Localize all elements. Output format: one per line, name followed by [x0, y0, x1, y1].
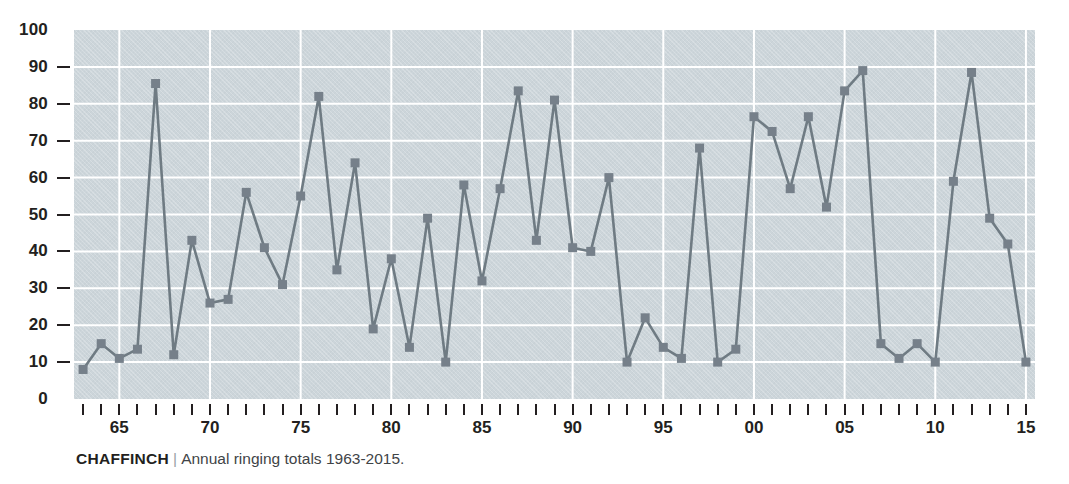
data-point-marker[interactable]: [586, 247, 595, 256]
data-point-marker[interactable]: [659, 343, 668, 352]
x-tick-mark: [662, 404, 664, 415]
y-tick-label: 20: [29, 315, 48, 335]
data-point-marker[interactable]: [205, 299, 214, 308]
x-tick-mark: [336, 404, 338, 415]
data-point-marker[interactable]: [876, 339, 885, 348]
data-point-marker[interactable]: [695, 144, 704, 153]
data-point-marker[interactable]: [568, 243, 577, 252]
data-point-marker[interactable]: [441, 358, 450, 367]
y-tick-mark: [57, 361, 70, 363]
data-point-marker[interactable]: [532, 236, 541, 245]
data-point-marker[interactable]: [858, 66, 867, 75]
data-point-marker[interactable]: [423, 214, 432, 223]
data-point-marker[interactable]: [405, 343, 414, 352]
x-tick-mark: [554, 404, 556, 415]
x-tick-mark: [626, 404, 628, 415]
data-point-marker[interactable]: [187, 236, 196, 245]
data-point-marker[interactable]: [351, 158, 360, 167]
data-point-marker[interactable]: [477, 276, 486, 285]
data-point-marker[interactable]: [514, 86, 523, 95]
data-point-marker[interactable]: [731, 345, 740, 354]
caption-separator: |: [169, 450, 181, 467]
data-point-marker[interactable]: [641, 313, 650, 322]
x-tick-mark: [680, 404, 682, 415]
data-point-marker[interactable]: [133, 345, 142, 354]
x-tick-mark: [408, 404, 410, 415]
data-point-marker[interactable]: [967, 68, 976, 77]
data-point-marker[interactable]: [713, 358, 722, 367]
x-tick-mark: [481, 404, 483, 415]
data-point-marker[interactable]: [604, 173, 613, 182]
data-point-marker[interactable]: [296, 192, 305, 201]
x-tick-mark: [136, 404, 138, 415]
data-point-marker[interactable]: [1021, 358, 1030, 367]
data-point-marker[interactable]: [314, 92, 323, 101]
data-point-marker[interactable]: [79, 365, 88, 374]
x-tick-mark: [735, 404, 737, 415]
data-point-marker[interactable]: [949, 177, 958, 186]
data-point-marker[interactable]: [97, 339, 106, 348]
x-tick-mark: [825, 404, 827, 415]
data-point-marker[interactable]: [260, 243, 269, 252]
x-tick-mark: [499, 404, 501, 415]
y-tick-label: 10: [29, 352, 48, 372]
data-point-marker[interactable]: [387, 254, 396, 263]
data-point-marker[interactable]: [786, 184, 795, 193]
x-tick-mark: [318, 404, 320, 415]
x-tick-mark: [517, 404, 519, 415]
data-point-marker[interactable]: [332, 265, 341, 274]
data-point-marker[interactable]: [768, 127, 777, 136]
data-point-marker[interactable]: [369, 324, 378, 333]
data-point-marker[interactable]: [623, 358, 632, 367]
x-tick-mark: [862, 404, 864, 415]
data-point-marker[interactable]: [804, 112, 813, 121]
y-tick-mark: [57, 66, 70, 68]
data-point-marker[interactable]: [895, 354, 904, 363]
x-tick-mark: [263, 404, 265, 415]
data-point-marker[interactable]: [840, 86, 849, 95]
x-tick-mark: [989, 404, 991, 415]
data-point-marker[interactable]: [931, 358, 940, 367]
data-point-marker[interactable]: [169, 350, 178, 359]
data-point-marker[interactable]: [115, 354, 124, 363]
x-tick-mark: [608, 404, 610, 415]
y-tick-mark: [57, 140, 70, 142]
x-tick-label: 75: [291, 418, 310, 438]
data-point-marker[interactable]: [224, 295, 233, 304]
x-tick-label: 65: [110, 418, 129, 438]
x-tick-mark: [118, 404, 120, 415]
x-axis: 6570758085909500051015: [74, 399, 1035, 449]
data-point-marker[interactable]: [278, 280, 287, 289]
x-tick-mark: [971, 404, 973, 415]
y-tick-label: 50: [29, 205, 48, 225]
y-tick-mark: [57, 103, 70, 105]
x-tick-mark: [445, 404, 447, 415]
x-tick-label: 80: [382, 418, 401, 438]
data-point-marker[interactable]: [677, 354, 686, 363]
data-point-marker[interactable]: [913, 339, 922, 348]
x-tick-mark: [807, 404, 809, 415]
figure-caption: CHAFFINCH|Annual ringing totals 1963-201…: [76, 450, 404, 468]
data-point-marker[interactable]: [151, 79, 160, 88]
x-tick-mark: [1025, 404, 1027, 415]
y-tick-mark: [57, 177, 70, 179]
x-tick-mark: [753, 404, 755, 415]
x-tick-label: 95: [654, 418, 673, 438]
x-tick-mark: [590, 404, 592, 415]
data-point-marker[interactable]: [550, 96, 559, 105]
data-point-marker[interactable]: [822, 203, 831, 212]
y-tick-mark: [57, 214, 70, 216]
y-tick-label: 90: [29, 57, 48, 77]
x-tick-mark: [699, 404, 701, 415]
data-point-marker[interactable]: [459, 180, 468, 189]
data-point-marker[interactable]: [242, 188, 251, 197]
y-tick-label: 40: [29, 241, 48, 261]
x-tick-mark: [209, 404, 211, 415]
y-tick-label: 80: [29, 94, 48, 114]
data-point-marker[interactable]: [749, 112, 758, 121]
data-point-marker[interactable]: [1003, 240, 1012, 249]
data-point-marker[interactable]: [985, 214, 994, 223]
data-point-marker[interactable]: [496, 184, 505, 193]
y-tick-label: 70: [29, 131, 48, 151]
x-tick-mark: [390, 404, 392, 415]
